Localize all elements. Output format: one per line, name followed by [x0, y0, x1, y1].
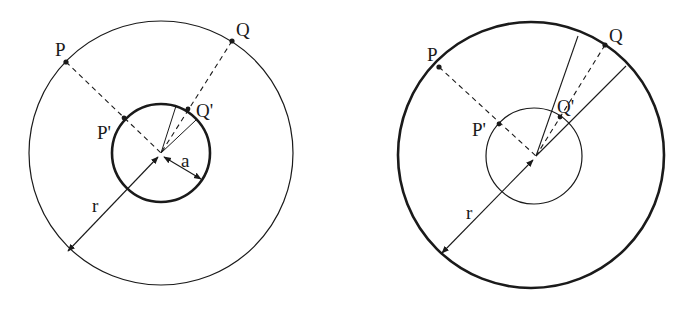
point-q-prime [186, 107, 191, 112]
radius-r-arrow [68, 157, 158, 251]
point-p [63, 59, 68, 64]
label-r: r [466, 202, 473, 223]
concentric-circles-figure: P Q P' Q' r a P Q P' Q' r [0, 0, 692, 311]
point-p [436, 64, 441, 69]
label-r: r [92, 195, 99, 216]
point-p-prime [122, 116, 127, 121]
point-p-prime [497, 122, 502, 127]
point-q [602, 42, 607, 47]
label-q: Q [609, 25, 623, 46]
label-p-prime: P' [472, 119, 486, 140]
point-q [229, 38, 234, 43]
left-diagram: P Q P' Q' r a [29, 19, 293, 285]
label-q-prime: Q' [557, 96, 574, 117]
label-a: a [181, 150, 190, 171]
dashed-line-q [161, 41, 232, 153]
label-p-prime: P' [97, 122, 111, 143]
right-diagram: P Q P' Q' r [398, 22, 664, 288]
label-q-prime: Q' [196, 100, 213, 121]
label-p: P [427, 44, 438, 65]
outer-circle [398, 22, 664, 288]
label-p: P [55, 39, 66, 60]
label-q: Q [236, 19, 250, 40]
radius-r-arrow [442, 160, 533, 253]
